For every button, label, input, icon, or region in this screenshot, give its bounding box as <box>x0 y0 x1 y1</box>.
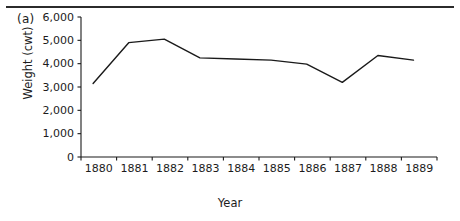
line-chart: Weight (cwt) 01,0002,0003,0004,0005,0006… <box>0 0 460 221</box>
axes <box>81 17 437 157</box>
data-series-line <box>93 39 413 83</box>
chart-canvas <box>0 0 460 221</box>
figure-root: (a) Weight (cwt) 01,0002,0003,0004,0005,… <box>0 0 460 221</box>
